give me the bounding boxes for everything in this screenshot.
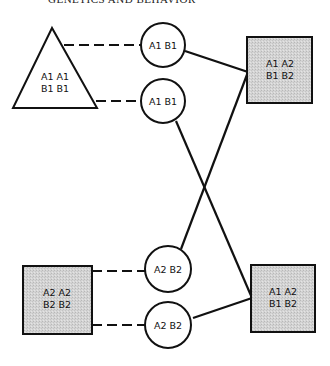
tr-square-genotype-line1: A1 A2 <box>266 58 294 69</box>
gamete-label: A1 B1 <box>149 40 177 51</box>
br-square-genotype-line1: A1 A2 <box>269 286 297 297</box>
triangle-genotype-line2: B1 B1 <box>41 83 69 94</box>
connector-g1-tr-square <box>185 51 248 72</box>
triangle-genotype-line1: A1 A1 <box>41 71 69 82</box>
parent-square-bottom-left: A2 A2 B2 B2 <box>23 266 92 334</box>
gamete-label: A2 B2 <box>154 264 182 275</box>
triangle-shape <box>13 28 97 108</box>
offspring-square-bottom-right: A1 A2 B1 B2 <box>251 265 315 332</box>
tr-square-genotype-line2: B1 B2 <box>266 70 294 81</box>
bl-square-genotype-line1: A2 A2 <box>43 287 71 298</box>
gamete-circle-1: A1 B1 <box>141 23 185 67</box>
br-square-genotype-line2: B1 B2 <box>269 298 297 309</box>
gamete-circle-3: A2 B2 <box>145 246 191 292</box>
gamete-label: A1 B1 <box>149 96 177 107</box>
offspring-square-top-right: A1 A2 B1 B2 <box>247 37 312 103</box>
gamete-label: A2 B2 <box>154 320 182 331</box>
bl-square-genotype-line2: B2 B2 <box>43 299 71 310</box>
parent-triangle: A1 A1 B1 B1 <box>13 28 97 108</box>
connector-g3-tr-square <box>181 72 248 249</box>
gamete-circle-4: A2 B2 <box>145 302 191 348</box>
genetic-cross-diagram: A1 A1 B1 B1 A2 A2 B2 B2 A1 B1 A1 B1 A2 B… <box>0 0 330 366</box>
gamete-circle-2: A1 B1 <box>141 79 185 123</box>
connector-g4-br-square <box>193 298 252 318</box>
